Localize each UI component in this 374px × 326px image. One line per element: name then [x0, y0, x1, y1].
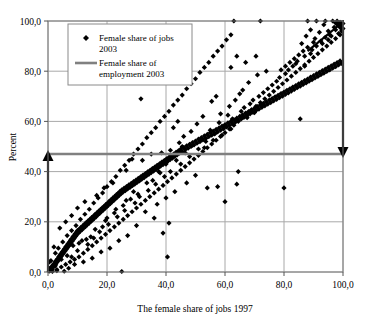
x-tick-label: 80,0 [276, 280, 293, 290]
x-tick-label: 60,0 [217, 280, 234, 290]
x-tick-label: 20,0 [99, 280, 116, 290]
x-tick-label: 0,0 [42, 280, 54, 290]
x-tick-label: 40,0 [158, 280, 175, 290]
y-tick-label: 20,0 [24, 217, 41, 227]
y-tick-label: 0,0 [29, 268, 41, 278]
legend-label-employment-line2: employment 2003 [99, 69, 165, 79]
x-axis-title: The female share of jobs 1997 [137, 304, 253, 314]
scatter-chart-svg: 0,020,040,060,080,0100,0 0,020,040,060,0… [0, 0, 374, 326]
y-axis-title: Percent [8, 132, 18, 161]
x-tick-label: 100,0 [332, 280, 354, 290]
legend: Female share of jobs 2003 Female share o… [68, 24, 192, 85]
legend-label-employment-line1: Female share of [99, 58, 156, 68]
y-tick-label: 100,0 [20, 17, 42, 27]
legend-label-jobs-line2: 2003 [99, 44, 118, 54]
chart-container: 0,020,040,060,080,0100,0 0,020,040,060,0… [0, 0, 374, 326]
y-tick-label: 60,0 [24, 117, 41, 127]
y-tick-label: 40,0 [24, 167, 41, 177]
legend-label-jobs-line1: Female share of jobs [99, 33, 174, 43]
y-tick-label: 80,0 [24, 67, 41, 77]
